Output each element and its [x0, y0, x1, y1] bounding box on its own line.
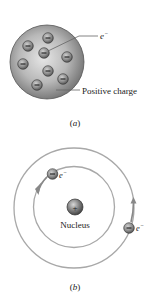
- planetary-model: + Nucleus e− e− (b): [14, 148, 144, 292]
- plum-pudding-model: e− Positive charge (a): [10, 25, 137, 128]
- electron-icon: [58, 74, 69, 85]
- positive-charge-label: Positive charge: [82, 86, 137, 96]
- electron-label-b2: e−: [136, 222, 144, 233]
- caption-b: (b): [70, 282, 81, 292]
- electron-icon: [47, 169, 58, 180]
- electron-label-a: e−: [100, 30, 108, 41]
- electron-icon: [39, 48, 50, 59]
- electron-icon: [62, 52, 73, 63]
- atom-models-figure: e− Positive charge (a) + Nucleus e−: [0, 0, 156, 300]
- electron-icon: [23, 41, 34, 52]
- electron-icon: [18, 59, 29, 70]
- electron-icon: [124, 223, 135, 234]
- nucleus-label: Nucleus: [60, 220, 90, 230]
- electron-icon: [32, 80, 43, 91]
- electron-icon: [43, 33, 54, 44]
- electron-label-b1: e−: [59, 169, 67, 180]
- caption-a: (a): [70, 118, 81, 128]
- plus-icon: +: [72, 203, 77, 213]
- nucleus: +: [67, 199, 83, 215]
- electron-icon: [43, 66, 54, 77]
